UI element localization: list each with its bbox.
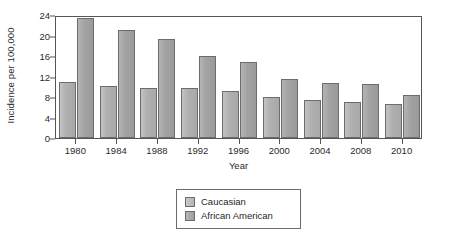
x-axis-tick-mark <box>402 139 403 144</box>
x-axis-tick-mark <box>116 139 117 144</box>
bar-african-american-1980 <box>77 18 94 138</box>
legend-label-caucasian: Caucasian <box>201 197 246 207</box>
bar-african-american-2008 <box>362 84 379 138</box>
y-axis-tick-label: 24 <box>30 11 50 21</box>
x-axis-tick-label: 1980 <box>65 145 86 156</box>
legend-swatch-caucasian <box>185 197 195 207</box>
bar-caucasian-1996 <box>222 91 239 138</box>
bar-african-american-2004 <box>322 83 339 138</box>
x-axis-title: Year <box>55 160 422 171</box>
bar-african-american-1984 <box>118 30 135 138</box>
bar-caucasian-2000 <box>263 97 280 138</box>
y-axis-tick-label: 20 <box>30 32 50 42</box>
bar-caucasian-1984 <box>100 86 117 138</box>
x-axis-tick-mark <box>75 139 76 144</box>
y-axis-tick-label: 16 <box>30 52 50 62</box>
x-axis-tick-label: 2004 <box>309 145 330 156</box>
x-axis-tick-label: 1996 <box>228 145 249 156</box>
chart-legend: Caucasian African American <box>176 189 301 229</box>
bar-african-american-2010 <box>403 95 420 138</box>
legend-swatch-african-american <box>185 211 195 221</box>
x-axis-tick-mark <box>279 139 280 144</box>
x-axis-tick-label: 2008 <box>350 145 371 156</box>
bar-caucasian-2010 <box>385 104 402 138</box>
bar-caucasian-1980 <box>59 82 76 138</box>
x-axis-tick-mark <box>198 139 199 144</box>
x-axis-tick-mark <box>239 139 240 144</box>
x-axis-tick-mark <box>320 139 321 144</box>
y-axis-title-text: Incidence per 100,000 <box>5 27 16 123</box>
legend-label-african-american: African American <box>201 211 273 221</box>
y-axis-tick-label: 12 <box>30 73 50 83</box>
plot-area <box>55 16 422 139</box>
x-axis-tick-mark <box>157 139 158 144</box>
y-axis-tick-label: 8 <box>30 93 50 103</box>
bar-african-american-2000 <box>281 79 298 138</box>
y-axis-tick-label: 0 <box>30 134 50 144</box>
x-axis-tick-label: 2010 <box>391 145 412 156</box>
bar-african-american-1992 <box>199 56 216 139</box>
bar-chart-figure: Incidence per 100,000 04812162024 198019… <box>0 0 464 244</box>
x-axis-tick-labels: 198019841988199219962000200420082010 <box>55 145 422 159</box>
legend-item: African American <box>185 209 292 223</box>
y-axis-title: Incidence per 100,000 <box>2 0 18 150</box>
x-axis-tick-mark <box>361 139 362 144</box>
x-axis-tick-label: 1988 <box>146 145 167 156</box>
bar-african-american-1996 <box>240 62 257 138</box>
y-axis-tick-label: 4 <box>30 114 50 124</box>
x-axis-tick-label: 2000 <box>269 145 290 156</box>
bar-caucasian-1992 <box>181 88 198 138</box>
x-axis-tick-label: 1992 <box>187 145 208 156</box>
bar-caucasian-2008 <box>344 102 361 138</box>
bar-series-container <box>56 17 421 138</box>
y-axis-tick-labels: 04812162024 <box>26 16 50 139</box>
x-axis-tick-label: 1984 <box>106 145 127 156</box>
bar-caucasian-1988 <box>140 88 157 138</box>
bar-caucasian-2004 <box>304 100 321 138</box>
bar-african-american-1988 <box>158 39 175 138</box>
legend-item: Caucasian <box>185 195 292 209</box>
